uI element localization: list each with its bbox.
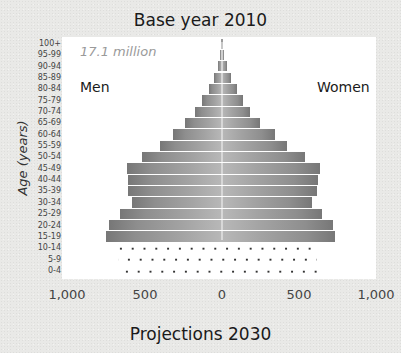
pyramid-row <box>0 152 401 162</box>
women-bar <box>222 152 305 162</box>
pyramid-row <box>0 84 401 94</box>
pyramid-row <box>0 141 401 151</box>
men-bar <box>160 141 222 151</box>
women-bar <box>222 141 287 151</box>
pyramid-row <box>0 197 401 207</box>
pyramid-row <box>0 220 401 230</box>
women-bar <box>222 197 312 207</box>
men-bar <box>195 107 222 117</box>
pyramid-row <box>0 107 401 117</box>
women-bar <box>222 220 333 230</box>
pyramid-row <box>0 186 401 196</box>
projection-title: Projections 2030 <box>0 324 401 344</box>
men-bar <box>127 163 222 173</box>
projection-dotted-row <box>115 243 320 253</box>
women-bar <box>222 107 250 117</box>
pyramid-row <box>0 163 401 173</box>
pyramid-row <box>0 118 401 128</box>
men-bar <box>128 186 222 196</box>
projection-dotted-row <box>118 254 317 264</box>
pyramid-row <box>0 39 401 49</box>
pyramid-row <box>0 73 401 83</box>
pyramid-row <box>0 95 401 105</box>
x-tick-women-500: 500 <box>287 287 312 302</box>
men-bar <box>185 118 222 128</box>
age-label: 0-4 <box>30 265 61 276</box>
women-bar <box>222 95 243 105</box>
women-bar <box>222 84 237 94</box>
men-bar <box>142 152 222 162</box>
center-axis-line <box>221 42 223 240</box>
men-bar <box>106 231 222 241</box>
x-tick-women-1000: 1,000 <box>357 287 394 302</box>
pyramid-row <box>0 61 401 71</box>
pyramid-row <box>0 175 401 185</box>
chart-title: Base year 2010 <box>0 10 401 30</box>
women-bar <box>222 118 260 128</box>
men-bar <box>109 220 222 230</box>
men-bar <box>128 175 222 185</box>
age-label: 5-9 <box>30 254 61 265</box>
women-bar <box>222 73 231 83</box>
men-bar <box>173 129 222 139</box>
x-tick-men-500: 500 <box>133 287 158 302</box>
pyramid-row <box>0 231 401 241</box>
women-bar <box>222 186 317 196</box>
men-bar <box>120 209 222 219</box>
men-bar <box>202 95 222 105</box>
women-bar <box>222 129 275 139</box>
pyramid-row <box>0 209 401 219</box>
x-axis: 1,000 500 0 500 1,000 <box>0 287 401 307</box>
pyramid-row <box>0 50 401 60</box>
x-tick-men-1000: 1,000 <box>48 287 85 302</box>
projection-dotted-row <box>121 266 317 276</box>
women-bar <box>222 163 320 173</box>
x-tick-zero: 0 <box>218 287 226 302</box>
women-bar <box>222 209 322 219</box>
women-bar <box>222 231 335 241</box>
men-bar <box>132 197 222 207</box>
pyramid-row <box>0 129 401 139</box>
age-label: 10-14 <box>30 242 61 253</box>
women-bar <box>222 175 318 185</box>
